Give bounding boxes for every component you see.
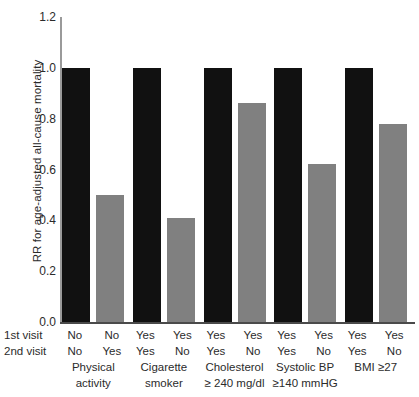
visit1-values: NoNo <box>56 327 130 343</box>
bar-chart: RR for age-adjusted all-cause mortality … <box>0 0 419 397</box>
visit1-values: YesYes <box>268 327 342 343</box>
group-name-line1: Systolic BP <box>268 359 342 375</box>
visit1-values: YesYes <box>198 327 272 343</box>
bar <box>308 164 336 322</box>
x-axis-group-label: YesYesYesNoBMI ≥27 <box>339 327 413 391</box>
group-name-line2: ≥140 mmHG <box>268 375 342 391</box>
visit1-value: Yes <box>235 327 272 343</box>
visit2-values: YesNo <box>339 343 413 359</box>
bar-group <box>62 17 124 322</box>
visit1-value: No <box>56 327 93 343</box>
visit2-value: Yes <box>93 343 130 359</box>
visit2-value: Yes <box>339 343 376 359</box>
bar <box>204 68 232 322</box>
y-axis-tick: 0.8 <box>18 112 56 126</box>
visit2-value: No <box>305 343 342 359</box>
visit-row-label: 2nd visit <box>4 343 56 359</box>
visit2-value: No <box>164 343 201 359</box>
y-axis-tick: 0.6 <box>18 163 56 177</box>
y-axis-tick-labels: 0.00.20.40.60.81.01.2 <box>18 0 56 340</box>
visit1-value: Yes <box>376 327 413 343</box>
visit2-value: Yes <box>198 343 235 359</box>
visit2-value: No <box>235 343 272 359</box>
group-name-line1: BMI ≥27 <box>339 359 413 375</box>
visit1-value: Yes <box>198 327 235 343</box>
group-name-line2: ≥ 240 mg/dl <box>198 375 272 391</box>
y-axis-tick: 1.0 <box>18 61 56 75</box>
visit-row-label: 1st visit <box>4 327 56 343</box>
plot-area <box>62 17 415 322</box>
visit2-value: Yes <box>127 343 164 359</box>
bar <box>274 68 302 322</box>
x-axis-label-block: 1st visit2nd visit NoNoNoYesPhysicalacti… <box>0 327 419 397</box>
bar <box>62 68 90 322</box>
bar <box>238 103 266 322</box>
group-name-line1: Physical <box>56 359 130 375</box>
visit2-values: YesNo <box>198 343 272 359</box>
visit1-value: Yes <box>164 327 201 343</box>
visit2-value: No <box>56 343 93 359</box>
bar <box>345 68 373 322</box>
visit1-values: YesYes <box>127 327 201 343</box>
bar-group <box>345 17 407 322</box>
x-axis-line <box>60 322 415 324</box>
visit2-values: YesNo <box>268 343 342 359</box>
group-name-line2: smoker <box>127 375 201 391</box>
visit1-value: Yes <box>305 327 342 343</box>
group-name-line2 <box>339 375 413 391</box>
bar-group <box>274 17 336 322</box>
group-name-line2: activity <box>56 375 130 391</box>
x-axis-group-label: YesYesYesNoCholesterol≥ 240 mg/dl <box>198 327 272 391</box>
y-axis-tick: 0.2 <box>18 264 56 278</box>
bar <box>96 195 124 322</box>
y-axis-tick: 1.2 <box>18 10 56 24</box>
x-axis-group-label: NoNoNoYesPhysicalactivity <box>56 327 130 391</box>
bar-group <box>133 17 195 322</box>
x-axis-group-label: YesYesYesNoSystolic BP≥140 mmHG <box>268 327 342 391</box>
x-axis-group-label: YesYesYesNoCigarettesmoker <box>127 327 201 391</box>
visit1-value: Yes <box>127 327 164 343</box>
bar <box>379 124 407 322</box>
visit2-values: NoYes <box>56 343 130 359</box>
bar <box>133 68 161 322</box>
visit1-value: Yes <box>339 327 376 343</box>
y-axis-tick: 0.4 <box>18 213 56 227</box>
bar <box>167 218 195 322</box>
group-name-line1: Cigarette <box>127 359 201 375</box>
visit2-value: No <box>376 343 413 359</box>
visit1-values: YesYes <box>339 327 413 343</box>
visit-row-labels: 1st visit2nd visit <box>4 327 56 359</box>
visit1-value: Yes <box>268 327 305 343</box>
visit2-value: Yes <box>268 343 305 359</box>
visit2-values: YesNo <box>127 343 201 359</box>
visit1-value: No <box>93 327 130 343</box>
group-name-line1: Cholesterol <box>198 359 272 375</box>
bar-group <box>204 17 266 322</box>
